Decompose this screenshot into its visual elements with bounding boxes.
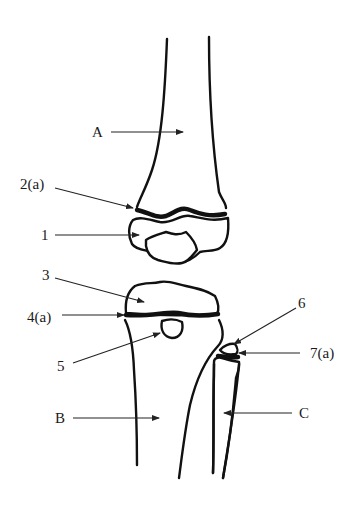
fibula-epiphysis	[220, 344, 237, 355]
label-6: 6	[298, 296, 306, 311]
label-B: B	[55, 411, 65, 426]
tibia-epiphysis	[126, 281, 219, 315]
label-5: 5	[57, 359, 65, 374]
knee-bone-diagram: A 2(a) 1 3 4(a) 5 6 7(a) B C	[0, 0, 359, 508]
pointer-lines	[55, 132, 300, 418]
label-1: 1	[41, 228, 49, 243]
label-3: 3	[42, 268, 50, 283]
bone-drawing	[0, 0, 359, 508]
femur-shaft	[137, 37, 226, 208]
femur-growth-plate	[137, 209, 225, 217]
label-4a: 4(a)	[27, 310, 51, 325]
femur-ossification-centre	[146, 232, 197, 264]
tibia-nodule	[161, 320, 182, 338]
label-C: C	[299, 406, 309, 421]
tibia-shaft	[125, 320, 223, 478]
label-2a: 2(a)	[20, 177, 44, 192]
label-A: A	[92, 125, 103, 140]
label-7a: 7(a)	[310, 346, 334, 361]
